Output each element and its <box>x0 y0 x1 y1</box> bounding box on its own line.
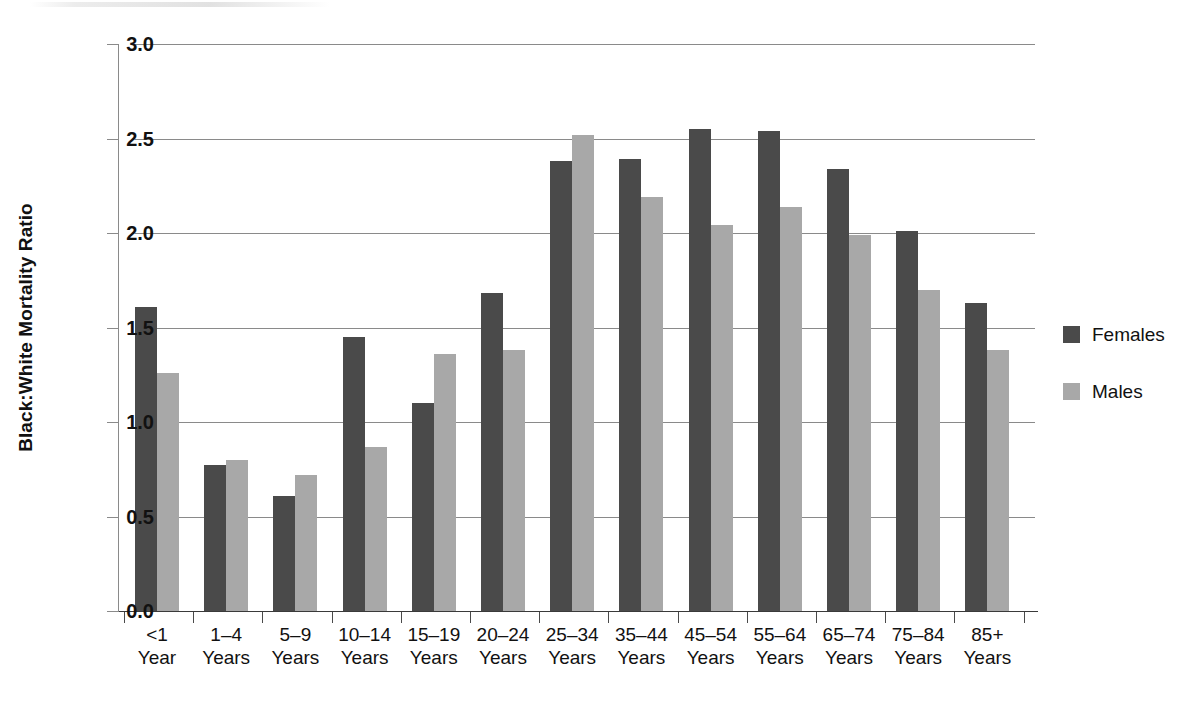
bar-males-9 <box>780 207 802 611</box>
legend-swatch-icon <box>1063 383 1080 400</box>
legend-label: Males <box>1092 382 1143 401</box>
bar-males-11 <box>918 290 940 611</box>
legend-swatch-icon <box>1063 326 1080 343</box>
bar-females-12 <box>965 303 987 611</box>
bar-females-5 <box>481 293 503 611</box>
y-tick-label: 0.5 <box>94 507 154 527</box>
bar-males-4 <box>434 354 456 611</box>
legend-item-females[interactable]: Females <box>1063 325 1193 344</box>
y-tick-label: 0.0 <box>94 601 154 621</box>
bar-females-10 <box>827 169 849 611</box>
y-tick-label: 2.0 <box>94 223 154 243</box>
bar-females-11 <box>896 231 918 611</box>
grouped-bar-chart: Black:White Mortality Ratio 0.00.51.01.5… <box>0 0 1204 704</box>
bar-females-9 <box>758 131 780 611</box>
bar-males-6 <box>572 135 594 611</box>
bar-males-8 <box>711 225 733 611</box>
x-tick-mark <box>539 612 540 623</box>
x-tick-mark <box>470 612 471 623</box>
bar-females-1 <box>204 465 226 611</box>
legend-label: Females <box>1092 325 1165 344</box>
bar-females-6 <box>550 161 572 611</box>
plot-area <box>135 44 1035 611</box>
x-tick-mark <box>678 612 679 623</box>
bar-males-7 <box>641 197 663 611</box>
x-tick-mark <box>401 612 402 623</box>
x-tick-label: 85+Years <box>942 623 1032 669</box>
bar-females-0 <box>135 307 157 611</box>
bar-males-12 <box>987 350 1009 611</box>
bar-females-4 <box>412 403 434 611</box>
x-tick-mark <box>193 612 194 623</box>
x-tick-mark <box>747 612 748 623</box>
y-axis-title: Black:White Mortality Ratio <box>13 44 39 611</box>
y-tick-label: 1.5 <box>94 318 154 338</box>
x-axis-line <box>118 611 1038 612</box>
gridline <box>135 44 1035 45</box>
bar-females-8 <box>689 129 711 611</box>
chart-legend: FemalesMales <box>1063 325 1193 439</box>
bar-males-3 <box>365 447 387 611</box>
legend-item-males[interactable]: Males <box>1063 382 1193 401</box>
y-tick-label: 3.0 <box>94 34 154 54</box>
bar-males-5 <box>503 350 525 611</box>
x-tick-mark <box>608 612 609 623</box>
bar-males-0 <box>157 373 179 611</box>
x-tick-mark <box>262 612 263 623</box>
x-tick-mark <box>885 612 886 623</box>
x-tick-label-line: 85+ <box>942 623 1032 646</box>
bar-males-2 <box>295 475 317 611</box>
x-tick-label-line: Years <box>942 646 1032 669</box>
y-tick-label: 2.5 <box>94 129 154 149</box>
bar-females-7 <box>619 159 641 611</box>
bar-females-2 <box>273 496 295 611</box>
x-tick-mark <box>816 612 817 623</box>
y-tick-label: 1.0 <box>94 412 154 432</box>
bar-females-3 <box>343 337 365 611</box>
bar-males-10 <box>849 235 871 611</box>
x-tick-mark <box>332 612 333 623</box>
x-tick-mark <box>1024 612 1025 623</box>
x-tick-mark <box>954 612 955 623</box>
bar-males-1 <box>226 460 248 611</box>
